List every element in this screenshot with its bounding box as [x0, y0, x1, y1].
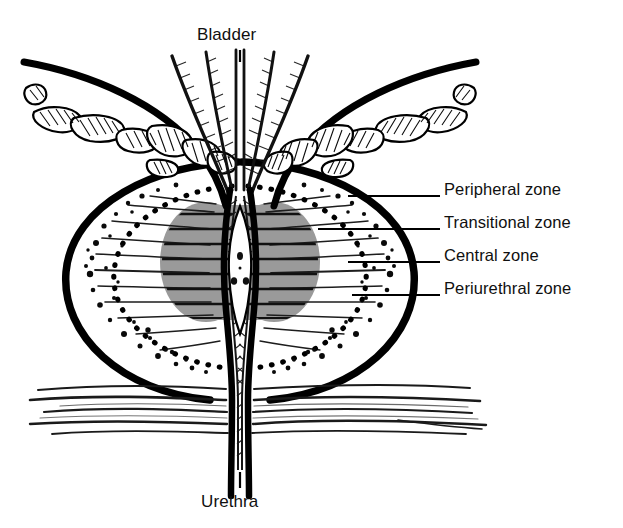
urethra-label: Urethra [201, 492, 258, 512]
zone-label-peripheral: Peripheral zone [444, 180, 561, 199]
prostate-zonal-anatomy-figure: different disorders. [0, 0, 623, 528]
zone-label-periurethral: Periurethral zone [444, 279, 571, 298]
zone-label-central: Central zone [444, 246, 539, 265]
bladder-label: Bladder [197, 25, 256, 45]
zone-label-transitional: Transitional zone [444, 213, 571, 232]
